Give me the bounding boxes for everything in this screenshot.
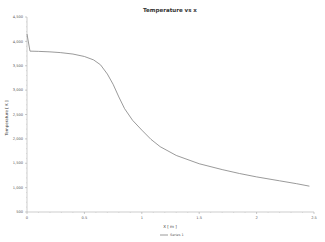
y-tick-label: 2,500 [13, 113, 24, 117]
axes [27, 17, 314, 212]
y-tick-label: 3,000 [13, 88, 24, 92]
y-tick-label: 500 [16, 210, 24, 214]
series-layer [27, 34, 309, 186]
legend: Series 1 [160, 233, 184, 237]
x-tick-label: 2.5 [311, 216, 317, 220]
legend-label: Series 1 [170, 233, 184, 237]
x-axis-ticks: 00.511.522.5 [26, 212, 317, 220]
y-tick-label: 3,500 [13, 64, 24, 68]
series-line [27, 34, 309, 186]
y-tick-label: 1,500 [13, 161, 24, 165]
y-tick-label: 1,000 [13, 186, 24, 190]
x-tick-label: 1.5 [196, 216, 202, 220]
x-tick-label: 1 [141, 216, 143, 220]
x-tick-label: 0 [26, 216, 29, 220]
y-tick-label: 4,000 [13, 40, 24, 44]
temperature-chart: Temperature vs x 5001,0001,5002,0002,500… [0, 0, 325, 242]
x-axis-label: X [ m ] [163, 224, 177, 229]
chart-title: Temperature vs x [143, 7, 197, 14]
y-tick-label: 4,500 [13, 15, 24, 19]
y-axis-ticks: 5001,0001,5002,0002,5003,0003,5004,0004,… [13, 15, 27, 214]
x-tick-label: 2 [255, 216, 257, 220]
x-tick-label: 0.5 [82, 216, 88, 220]
y-tick-label: 2,000 [13, 137, 24, 141]
y-axis-label: Temperature [ K ] [4, 100, 9, 136]
